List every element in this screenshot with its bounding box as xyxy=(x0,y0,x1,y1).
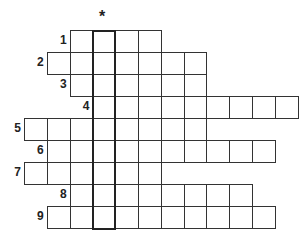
grid-cell-r8-c2[interactable] xyxy=(70,184,93,207)
grid-cell-r8-c4[interactable] xyxy=(115,184,139,207)
grid-cell-r7-c3[interactable] xyxy=(92,162,116,185)
grid-cell-r2-c7[interactable] xyxy=(184,52,207,75)
grid-cell-r4-c3[interactable] xyxy=(92,96,116,119)
grid-cell-r2-c5[interactable] xyxy=(138,52,162,75)
grid-cell-r9-c9[interactable] xyxy=(229,206,253,229)
grid-cell-r4-c5[interactable] xyxy=(138,96,162,119)
grid-cell-r3-c5[interactable] xyxy=(138,74,162,97)
grid-cell-r5-c4[interactable] xyxy=(115,118,139,141)
grid-cell-r5-c7[interactable] xyxy=(184,118,207,141)
clue-number-7: 7 xyxy=(7,165,21,179)
grid-cell-r8-c9[interactable] xyxy=(229,184,253,207)
key-column-marker: * xyxy=(99,8,105,26)
grid-cell-r1-c5[interactable] xyxy=(138,30,162,53)
grid-cell-r9-c6[interactable] xyxy=(161,206,185,229)
grid-cell-r8-c6[interactable] xyxy=(161,184,185,207)
grid-cell-r6-c1[interactable] xyxy=(47,140,71,163)
grid-cell-r2-c3[interactable] xyxy=(92,52,116,75)
clue-number-6: 6 xyxy=(30,143,44,157)
clue-number-4: 4 xyxy=(75,99,89,113)
grid-cell-r1-c3[interactable] xyxy=(92,30,116,53)
grid-cell-r1-c4[interactable] xyxy=(115,30,139,53)
grid-cell-r9-c7[interactable] xyxy=(184,206,207,229)
grid-cell-r6-c10[interactable] xyxy=(252,140,276,163)
grid-cell-r8-c5[interactable] xyxy=(138,184,162,207)
clue-number-8: 8 xyxy=(53,187,67,201)
grid-cell-r6-c2[interactable] xyxy=(70,140,93,163)
grid-cell-r9-c4[interactable] xyxy=(115,206,139,229)
grid-cell-r8-c3[interactable] xyxy=(92,184,116,207)
grid-cell-r7-c0[interactable] xyxy=(24,162,48,185)
grid-cell-r6-c5[interactable] xyxy=(138,140,162,163)
grid-cell-r5-c0[interactable] xyxy=(24,118,48,141)
grid-cell-r6-c3[interactable] xyxy=(92,140,116,163)
grid-cell-r6-c7[interactable] xyxy=(184,140,207,163)
grid-cell-r7-c1[interactable] xyxy=(47,162,71,185)
clue-number-2: 2 xyxy=(30,55,44,69)
grid-cell-r5-c2[interactable] xyxy=(70,118,93,141)
grid-cell-r3-c7[interactable] xyxy=(184,74,207,97)
grid-cell-r9-c2[interactable] xyxy=(70,206,93,229)
grid-cell-r6-c6[interactable] xyxy=(161,140,185,163)
grid-cell-r9-c10[interactable] xyxy=(252,206,276,229)
grid-cell-r2-c4[interactable] xyxy=(115,52,139,75)
grid-cell-r9-c5[interactable] xyxy=(138,206,162,229)
grid-cell-r7-c2[interactable] xyxy=(70,162,93,185)
grid-cell-r7-c5[interactable] xyxy=(138,162,162,185)
grid-cell-r4-c7[interactable] xyxy=(184,96,207,119)
grid-cell-r2-c2[interactable] xyxy=(70,52,93,75)
grid-cell-r1-c2[interactable] xyxy=(70,30,93,53)
grid-cell-r3-c2[interactable] xyxy=(70,74,93,97)
grid-cell-r9-c1[interactable] xyxy=(47,206,71,229)
grid-cell-r4-c9[interactable] xyxy=(229,96,253,119)
grid-cell-r6-c4[interactable] xyxy=(115,140,139,163)
grid-cell-r3-c3[interactable] xyxy=(92,74,116,97)
clue-number-1: 1 xyxy=(53,33,67,47)
clue-number-9: 9 xyxy=(30,209,44,223)
grid-cell-r7-c4[interactable] xyxy=(115,162,139,185)
grid-cell-r5-c3[interactable] xyxy=(92,118,116,141)
grid-cell-r4-c6[interactable] xyxy=(161,96,185,119)
grid-cell-r2-c6[interactable] xyxy=(161,52,185,75)
clue-number-3: 3 xyxy=(53,77,67,91)
grid-cell-r6-c8[interactable] xyxy=(206,140,230,163)
grid-cell-r2-c1[interactable] xyxy=(47,52,71,75)
grid-cell-r9-c8[interactable] xyxy=(206,206,230,229)
grid-cell-r5-c1[interactable] xyxy=(47,118,71,141)
clue-number-5: 5 xyxy=(7,121,21,135)
grid-cell-r5-c5[interactable] xyxy=(138,118,162,141)
grid-cell-r8-c7[interactable] xyxy=(184,184,207,207)
grid-cell-r4-c4[interactable] xyxy=(115,96,139,119)
grid-cell-r4-c10[interactable] xyxy=(252,96,276,119)
grid-cell-r6-c9[interactable] xyxy=(229,140,253,163)
grid-cell-r4-c11[interactable] xyxy=(275,96,299,119)
grid-cell-r4-c8[interactable] xyxy=(206,96,230,119)
grid-cell-r3-c4[interactable] xyxy=(115,74,139,97)
grid-cell-r3-c6[interactable] xyxy=(161,74,185,97)
grid-cell-r9-c3[interactable] xyxy=(92,206,116,229)
grid-cell-r8-c8[interactable] xyxy=(206,184,230,207)
grid-cell-r5-c6[interactable] xyxy=(161,118,185,141)
